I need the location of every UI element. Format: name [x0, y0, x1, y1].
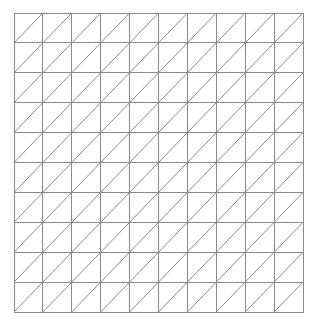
- diagram-canvas: [0, 0, 317, 326]
- triangulated-grid: [0, 0, 317, 326]
